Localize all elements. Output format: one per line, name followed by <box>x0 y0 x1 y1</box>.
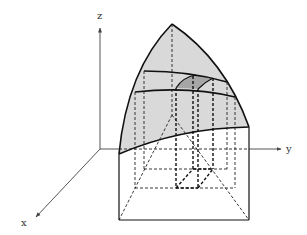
z-axis-label: z <box>97 10 102 21</box>
volume-diagram: z x y <box>0 0 307 235</box>
x-axis-label: x <box>21 217 27 228</box>
x-axis <box>36 149 100 217</box>
y-axis-label: y <box>285 143 292 154</box>
